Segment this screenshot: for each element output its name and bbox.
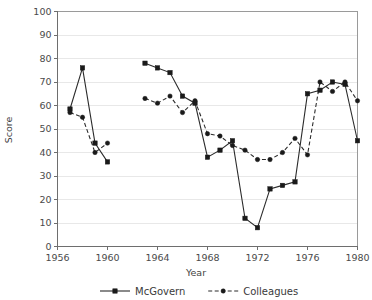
data-point [230,139,234,143]
data-point [143,61,147,65]
y-tick-label: 0 [45,241,51,252]
y-tick-label: 30 [39,170,51,181]
data-point [268,187,272,191]
data-point [255,226,259,230]
data-point [193,99,197,103]
data-point [143,96,147,100]
chart-container: 0102030405060708090100 19561960196419681… [0,0,372,300]
y-tick-label: 90 [39,29,51,40]
y-tick-label: 20 [39,194,51,205]
y-tick-label: 100 [33,6,51,17]
x-tick-label: 1972 [245,252,269,263]
data-point [318,88,322,92]
y-tick-label: 70 [39,76,51,87]
legend-label-colleagues: Colleagues [243,286,298,297]
gridlines [58,12,358,224]
data-point [355,139,359,143]
y-tick-label: 50 [39,123,51,134]
data-point [330,80,334,84]
series-line-mcgovern [145,63,358,228]
y-axis-title: Score [3,117,14,144]
data-point [243,148,247,152]
y-tick-label: 80 [39,53,51,64]
data-point [293,180,297,184]
data-point [305,153,309,157]
legend-label-mcgovern: McGovern [135,286,185,297]
data-point [168,94,172,98]
data-point [180,94,184,98]
series-lines [70,63,358,228]
data-point [205,132,209,136]
data-point [355,99,359,103]
data-point [243,216,247,220]
data-point [205,155,209,159]
data-point [343,80,347,84]
x-tick-label: 1964 [145,252,169,263]
y-tick-label: 40 [39,147,51,158]
x-axis-title: Year [185,267,206,278]
data-point [93,141,97,145]
legend-marker-mcgovern [113,289,117,293]
data-point [318,80,322,84]
y-tick-label: 60 [39,100,51,111]
data-point [293,136,297,140]
x-tick-label: 1980 [345,252,369,263]
data-point [280,183,284,187]
data-point [80,115,84,119]
data-point [305,92,309,96]
data-point [218,148,222,152]
data-point [218,134,222,138]
data-point [68,110,72,114]
y-tick-label: 10 [39,217,51,228]
data-point [268,157,272,161]
series-line-colleagues [145,82,358,160]
y-axis-tick-labels: 0102030405060708090100 [33,6,51,252]
x-tick-label: 1956 [45,252,69,263]
data-point [105,141,109,145]
data-point [255,157,259,161]
data-point [80,66,84,70]
series-markers [68,61,360,230]
x-tick-label: 1968 [195,252,219,263]
data-point [155,66,159,70]
chart-legend: McGovernColleagues [100,286,298,297]
series-line-colleagues [70,113,108,153]
data-point [330,89,334,93]
data-point [280,150,284,154]
y-axis-ticks [54,12,58,247]
x-tick-label: 1976 [295,252,319,263]
data-point [168,70,172,74]
data-point [105,160,109,164]
data-point [155,101,159,105]
x-axis-tick-labels: 1956196019641968197219761980 [45,252,369,263]
data-point [230,143,234,147]
data-point [180,110,184,114]
data-point [93,150,97,154]
x-tick-label: 1960 [95,252,119,263]
legend-marker-colleagues [221,289,225,293]
line-chart: 0102030405060708090100 19561960196419681… [0,0,372,300]
x-axis-ticks [58,247,358,251]
